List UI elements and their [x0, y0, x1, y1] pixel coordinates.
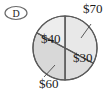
- pie-label-70: $70: [83, 1, 103, 16]
- pie-label-60: $60: [39, 76, 59, 91]
- pie-label-40: $40: [41, 31, 61, 46]
- choice-marker-label: D: [12, 8, 19, 19]
- pie-chart-figure: $70 $30 $60 $40 D: [0, 0, 110, 94]
- pie-label-30: $30: [73, 50, 93, 65]
